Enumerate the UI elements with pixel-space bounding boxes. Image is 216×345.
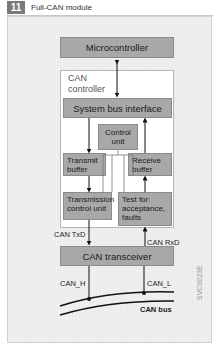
acceptance-test-block: Test for: acceptance, faults — [118, 192, 172, 226]
transmission-control-label-line2: control unit — [67, 204, 106, 213]
figure-title: Full-CAN module — [31, 1, 92, 14]
transmission-control-unit-block: Transmission control unit — [63, 192, 112, 220]
can-l-label: CAN_L — [147, 279, 171, 288]
receive-buffer-label-line1: Receive — [132, 156, 161, 165]
can-transceiver-label: CAN transceiver — [82, 252, 151, 261]
transmit-buffer-label-line1: Transmit — [67, 156, 98, 165]
can-transceiver-block: CAN transceiver — [60, 246, 174, 266]
can-rxd-label: CAN RxD — [147, 238, 180, 247]
transmission-control-label-line1: Transmission — [67, 195, 114, 204]
transmit-buffer-label-line2: buffer — [67, 165, 87, 174]
receive-buffer-block: Receive buffer — [128, 153, 172, 176]
test-label-line2: acceptance, — [122, 204, 165, 213]
test-label-line3: faults — [122, 213, 141, 222]
can-controller-label-line1: CAN — [68, 73, 105, 84]
can-bus-label: CAN bus — [140, 305, 172, 314]
control-unit-label-line1: Control — [105, 128, 131, 137]
can-h-label: CAN_H — [60, 279, 85, 288]
transmit-buffer-block: Transmit buffer — [63, 153, 106, 176]
system-bus-interface-block: System bus interface — [63, 98, 172, 118]
microcontroller-block: Microcontroller — [60, 37, 174, 58]
figure-header: 11 Full-CAN module — [7, 0, 213, 16]
control-unit-block: Control unit — [98, 124, 138, 150]
image-code: SVC0023E — [196, 265, 203, 300]
microcontroller-label: Microcontroller — [86, 43, 148, 52]
can-txd-label: CAN TxD — [54, 230, 86, 239]
receive-buffer-label-line2: buffer — [132, 165, 152, 174]
figure-number-badge: 11 — [7, 1, 25, 14]
test-label-line1: Test for: — [122, 195, 150, 204]
can-controller-label: CAN controller — [68, 73, 105, 95]
system-bus-interface-label: System bus interface — [73, 104, 162, 113]
control-unit-label-line2: unit — [112, 137, 125, 146]
can-controller-label-line2: controller — [68, 84, 105, 95]
